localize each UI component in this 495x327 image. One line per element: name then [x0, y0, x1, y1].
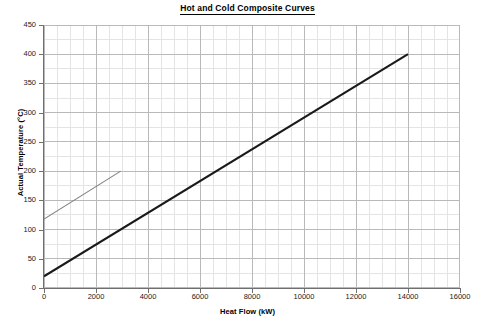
plot-area [44, 25, 460, 288]
x-tick-mark [460, 289, 461, 293]
y-tick-mark [39, 113, 44, 114]
x-tick-mark [304, 289, 305, 293]
y-tick-mark [39, 171, 44, 172]
y-tick-label: 450 [2, 21, 36, 29]
y-tick-label: 100 [2, 226, 36, 234]
y-tick-label: 0 [2, 284, 36, 292]
x-tick-mark [148, 289, 149, 293]
y-axis-title: Actual Temperature (°C) [16, 83, 25, 223]
y-tick-mark [39, 142, 44, 143]
x-tick-label: 16000 [437, 292, 483, 301]
y-tick-mark [39, 200, 44, 201]
x-tick-label: 0 [21, 292, 67, 301]
x-tick-label: 6000 [177, 292, 223, 301]
x-tick-mark [252, 289, 253, 293]
y-tick-mark [39, 54, 44, 55]
x-tick-label: 4000 [125, 292, 171, 301]
series-lines [44, 25, 460, 288]
x-tick-label: 12000 [333, 292, 379, 301]
series-line [44, 54, 408, 276]
x-tick-label: 2000 [73, 292, 119, 301]
x-axis-title: Heat Flow (kW) [0, 307, 495, 316]
x-tick-label: 8000 [229, 292, 275, 301]
chart-title-text: Hot and Cold Composite Curves [180, 3, 315, 15]
x-tick-mark [200, 289, 201, 293]
x-tick-mark [356, 289, 357, 293]
y-tick-mark [39, 259, 44, 260]
x-tick-mark [44, 289, 45, 293]
y-tick-mark [39, 230, 44, 231]
x-tick-label: 10000 [281, 292, 327, 301]
chart-title: Hot and Cold Composite Curves [0, 3, 495, 13]
y-tick-label: 50 [2, 255, 36, 263]
x-tick-mark [408, 289, 409, 293]
y-tick-mark [39, 83, 44, 84]
series-line [44, 171, 121, 219]
chart-figure: Hot and Cold Composite Curves 0501001502… [0, 0, 495, 327]
y-tick-mark [39, 25, 44, 26]
y-tick-label: 400 [2, 50, 36, 58]
x-tick-label: 14000 [385, 292, 431, 301]
x-tick-mark [96, 289, 97, 293]
